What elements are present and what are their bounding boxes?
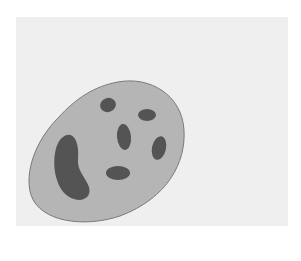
mast-cell-diagram — [0, 0, 301, 261]
